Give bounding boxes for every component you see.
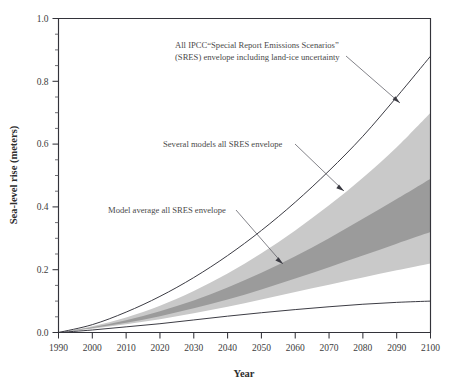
x-tick-label: 2010 — [117, 343, 136, 353]
x-tick-label: 1990 — [49, 343, 68, 353]
y-tick-label: 0.8 — [37, 77, 49, 87]
x-tick-label: 2060 — [286, 343, 305, 353]
annotation-several-models: Several models all SRES envelope — [163, 139, 283, 149]
y-tick-label: 0.2 — [37, 265, 49, 275]
y-tick-label: 0.4 — [37, 202, 49, 212]
x-tick-label: 2100 — [421, 343, 440, 353]
x-axis-title: Year — [234, 368, 255, 379]
chart-canvas: 0.00.20.40.60.81.0 199020002010202020302… — [0, 0, 455, 387]
x-tick-label: 2040 — [218, 343, 237, 353]
x-tick-label: 2000 — [83, 343, 102, 353]
sea-level-rise-chart-figure: 0.00.20.40.60.81.0 199020002010202020302… — [0, 0, 455, 387]
x-tick-label: 2050 — [252, 343, 271, 353]
x-tick-label: 2080 — [353, 343, 372, 353]
annotation-outer-envelope-line1: All IPCC“Special Report Emissions Scenar… — [175, 40, 339, 50]
y-tick-label: 0.0 — [37, 328, 49, 338]
y-tick-label: 0.6 — [37, 139, 49, 149]
x-tick-label: 2070 — [320, 343, 339, 353]
x-tick-label: 2090 — [387, 343, 406, 353]
x-tick-label: 2020 — [150, 343, 169, 353]
y-axis-title: Sea-level rise (meters) — [8, 125, 20, 224]
annotation-outer-envelope-line2: (SRES) envelope including land-ice uncer… — [175, 52, 340, 62]
x-tick-label: 2030 — [184, 343, 203, 353]
annotation-model-average: Model average all SRES envelope — [108, 205, 226, 215]
y-tick-label: 1.0 — [37, 14, 49, 24]
